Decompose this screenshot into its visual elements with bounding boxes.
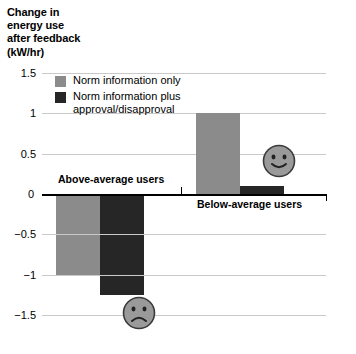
chart-title: Change in energy use after feedback (kW/… bbox=[7, 6, 147, 59]
chart-legend: Norm information only Norm information p… bbox=[55, 74, 181, 119]
ytick-label-minus-1.5: −1.5 bbox=[14, 309, 36, 321]
chart-screenshot: Change in energy use after feedback (kW/… bbox=[0, 0, 356, 354]
legend-item-norm-plus-approval: Norm information plus approval/disapprov… bbox=[55, 90, 181, 117]
ytick-label-1: 1 bbox=[30, 107, 36, 119]
chart-title-line-3: after feedback bbox=[7, 32, 147, 45]
ytick-label-1.5: 1.5 bbox=[21, 67, 36, 79]
axis-end-tick-right bbox=[326, 194, 327, 201]
legend-item-norm-only: Norm information only bbox=[55, 74, 181, 88]
chart-title-line-4: (kW/hr) bbox=[7, 46, 147, 59]
ytick-label-0: 0 bbox=[28, 188, 34, 200]
axis-category-tick bbox=[181, 187, 182, 194]
legend-label-norm-plus-approval: Norm information plus approval/disapprov… bbox=[73, 90, 181, 117]
gridline-minus-1: −1 bbox=[42, 275, 326, 276]
ytick-label-0.5: 0.5 bbox=[21, 148, 36, 160]
chart-title-line-2: energy use bbox=[7, 19, 147, 32]
chart-title-line-1: Change in bbox=[7, 6, 147, 19]
bar-above-average-norm-plus-approval bbox=[100, 194, 144, 295]
legend-swatch-norm-only bbox=[55, 76, 66, 87]
legend-label-norm-only: Norm information only bbox=[73, 74, 181, 88]
category-label-below-average: Below-average users bbox=[197, 198, 302, 210]
frowning-face-icon bbox=[121, 295, 157, 331]
zero-axis-line: 0 bbox=[42, 194, 327, 196]
ytick-label-minus-1: −1 bbox=[23, 269, 36, 281]
category-label-above-average: Above-average users bbox=[58, 173, 164, 185]
bar-below-average-norm-plus-approval bbox=[240, 186, 284, 194]
gridline-minus-0.5: −0.5 bbox=[42, 234, 326, 235]
bar-below-average-norm-only bbox=[196, 113, 240, 194]
ytick-label-minus-0.5: −0.5 bbox=[14, 228, 36, 240]
gridline-minus-1.5: −1.5 bbox=[42, 315, 326, 316]
legend-swatch-norm-plus-approval bbox=[55, 92, 66, 103]
smiling-face-icon bbox=[261, 143, 297, 179]
